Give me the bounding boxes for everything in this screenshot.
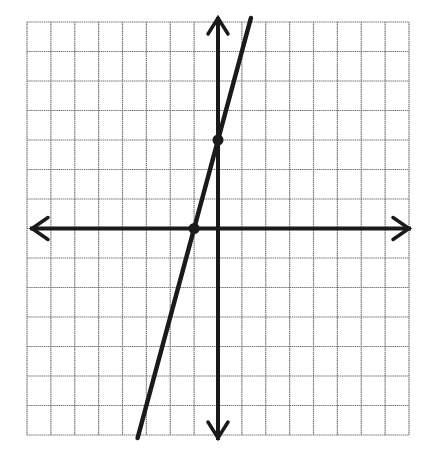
coordinate-plane xyxy=(0,0,439,460)
plotted-point xyxy=(213,135,224,146)
plotted-point xyxy=(189,223,200,234)
